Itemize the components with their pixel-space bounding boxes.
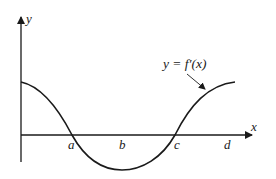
graph-figure: y x y = f′(x) a b c d [0, 0, 276, 179]
x-axis-label: x [250, 119, 257, 134]
curve-label-arrow [187, 74, 205, 89]
y-axis-label: y [24, 11, 32, 26]
curve-f-prime [21, 82, 235, 170]
curve-label: y = f′(x) [161, 56, 207, 71]
tick-label-c: c [174, 137, 180, 152]
tick-label-a: a [68, 137, 75, 152]
tick-label-d: d [224, 137, 231, 152]
graph-canvas: y x y = f′(x) a b c d [0, 0, 276, 179]
tick-label-b: b [119, 137, 126, 152]
